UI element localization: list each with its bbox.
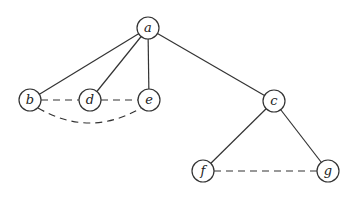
node-label-e: e xyxy=(145,92,153,107)
node-label-c: c xyxy=(270,93,278,108)
edge-a-d xyxy=(90,28,148,100)
node-label-g: g xyxy=(324,163,332,178)
graph-diagram: a b d e c f g xyxy=(0,0,357,198)
node-label-d: d xyxy=(86,92,94,107)
edge-a-c xyxy=(148,28,274,101)
edge-c-g xyxy=(274,101,328,171)
edge-c-f xyxy=(203,101,274,171)
node-label-a: a xyxy=(144,20,152,35)
node-label-b: b xyxy=(26,92,34,107)
